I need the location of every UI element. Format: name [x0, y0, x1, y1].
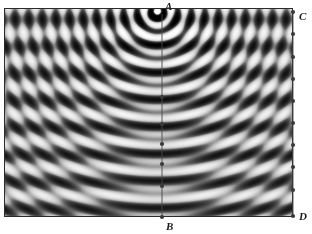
wave-interference-figure: A B C D	[0, 0, 312, 234]
point-label-d: D	[299, 211, 307, 222]
wave-field-canvas	[4, 8, 293, 217]
point-label-c: C	[299, 11, 306, 22]
wave-field-plot	[4, 8, 293, 217]
point-label-a: A	[165, 1, 172, 12]
point-label-b: B	[166, 221, 173, 232]
